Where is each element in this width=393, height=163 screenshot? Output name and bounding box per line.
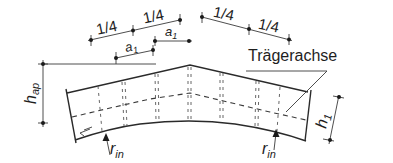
a1-dimension-left: a1 — [114, 38, 155, 64]
a1-dimension-right: a1 — [153, 24, 192, 46]
h-ap-label: hap — [22, 83, 41, 104]
a1-label: a1 — [165, 24, 177, 41]
r-in-label: rin — [110, 140, 124, 160]
beam-diagram: 1/4 1/4 a1 a1 1/4 1/4 — [0, 0, 393, 163]
a1-label: a1 — [123, 38, 139, 57]
beam-axis — [72, 93, 306, 120]
beam-axis-callout: Trägerachse — [246, 47, 337, 112]
beam-axis-label: Trägerachse — [248, 47, 337, 64]
beam-outline — [66, 65, 311, 143]
r-in-right: rin — [262, 129, 280, 160]
h1-label: h1 — [312, 111, 334, 130]
r-in-label: rin — [262, 140, 276, 160]
h1-dimension: h1 — [312, 95, 344, 144]
quarter-dimension-right: 1/4 1/4 — [200, 3, 292, 45]
quarter-label: 1/4 — [141, 6, 165, 27]
r-in-left: rin — [103, 133, 124, 160]
h-ap-dimension: hap — [22, 60, 156, 127]
